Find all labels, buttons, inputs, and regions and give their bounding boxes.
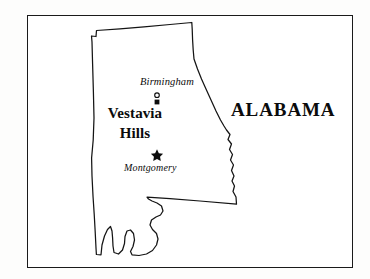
city-label-vestavia-hills: VestaviaHills bbox=[94, 106, 176, 141]
birmingham-circle-marker bbox=[155, 93, 160, 98]
map-canvas bbox=[0, 0, 370, 279]
vestavia-hills-label-line-1: Vestavia bbox=[108, 105, 162, 121]
state-name-label: ALABAMA bbox=[231, 100, 335, 120]
alabama-locator-map: Birmingham VestaviaHills Montgomery ALAB… bbox=[0, 0, 370, 279]
city-label-birmingham: Birmingham bbox=[140, 77, 194, 88]
city-label-montgomery: Montgomery bbox=[124, 163, 177, 173]
vestavia-hills-square-marker bbox=[155, 100, 160, 105]
vestavia-hills-label-line-2: Hills bbox=[94, 126, 176, 142]
